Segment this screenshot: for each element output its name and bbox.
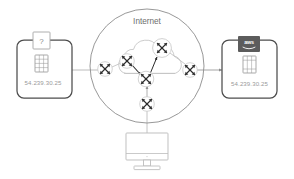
right-node-group[interactable]: aws 54.239.30.25: [222, 36, 277, 98]
aws-logo-badge[interactable]: aws: [238, 36, 260, 52]
server-instance-icon: [35, 55, 48, 72]
monitor-icon[interactable]: [126, 133, 168, 170]
server-instance-icon: [243, 56, 256, 73]
right-node-ip-label: 54.239.30.25: [231, 80, 268, 87]
connector-layer: [72, 53, 222, 133]
internet-label: Internet: [133, 17, 161, 26]
left-node-ip-label: 54.239.30.25: [25, 79, 62, 86]
link-router-center-to-north: [150, 57, 157, 74]
router-east[interactable]: [183, 63, 198, 78]
router-north[interactable]: [153, 39, 172, 58]
left-node-group[interactable]: ? 54.239.30.25: [17, 32, 72, 98]
router-northwest[interactable]: [120, 54, 135, 69]
router-center[interactable]: [138, 71, 154, 87]
router-layer: [98, 39, 198, 112]
workstation-group[interactable]: [126, 133, 168, 170]
diagram-canvas: Internet: [0, 0, 294, 179]
router-south[interactable]: [140, 97, 155, 112]
aws-logo-text: aws: [244, 39, 254, 45]
question-badge[interactable]: ?: [33, 32, 50, 49]
link-router-north-to-east: [170, 53, 185, 64]
link-router-west-to-northwest: [112, 63, 121, 67]
router-west[interactable]: [98, 62, 113, 77]
question-badge-label: ?: [39, 37, 44, 46]
